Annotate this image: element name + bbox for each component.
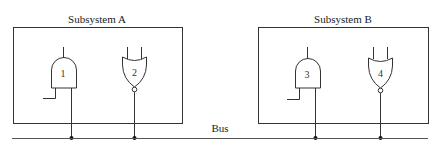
inversion-bubble-icon bbox=[132, 87, 137, 92]
gate-3-and: 3 bbox=[287, 47, 321, 140]
gate-2-number: 2 bbox=[132, 67, 137, 78]
gate-2-nor: 2 bbox=[123, 47, 147, 140]
bus: Bus bbox=[12, 122, 428, 139]
gate-3-number: 3 bbox=[305, 69, 310, 80]
gate-1-input-side bbox=[43, 88, 56, 99]
subsystem-a: Subsystem A bbox=[14, 13, 183, 124]
inversion-bubble-icon bbox=[378, 88, 383, 93]
subsystem-b: Subsystem B bbox=[259, 13, 429, 124]
gate-3-input-side bbox=[287, 88, 300, 100]
subsystem-b-label: Subsystem B bbox=[314, 13, 372, 25]
gate-1-number: 1 bbox=[61, 68, 66, 79]
gate-4-nor: 4 bbox=[369, 47, 393, 140]
circuit-diagram: Subsystem A Subsystem B 1 2 3 bbox=[0, 0, 444, 150]
gate-1-and: 1 bbox=[43, 47, 77, 140]
bus-label: Bus bbox=[211, 122, 228, 134]
gate-4-number: 4 bbox=[378, 68, 383, 79]
subsystem-a-label: Subsystem A bbox=[68, 13, 126, 25]
subsystem-a-box bbox=[14, 28, 183, 124]
subsystem-b-box bbox=[259, 28, 429, 124]
